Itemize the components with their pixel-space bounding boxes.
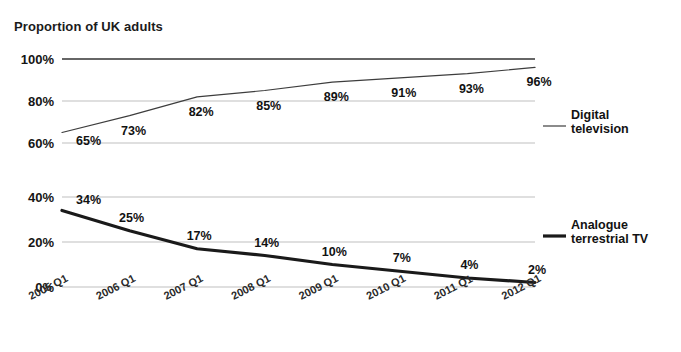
chart-plot-area: 100%80%60%40% 20%0% 65%73%82%85%89%91%93… — [0, 0, 681, 352]
y-axis-tick-labels-upper: 100%80%60%40% — [21, 52, 55, 205]
series-data-labels: 65%73%82%85%89%91%93%96%34%25%17%14%10%7… — [76, 75, 552, 276]
legend-label-digital-television: Digital — [571, 108, 609, 122]
data-point-label: 85% — [256, 99, 281, 113]
legend-label-analogue-terrestrial-tv: Analogue — [571, 218, 628, 232]
data-point-label: 91% — [391, 86, 416, 100]
data-point-label: 93% — [459, 82, 484, 96]
y-tick-label: 80% — [28, 94, 54, 109]
data-point-label: 73% — [121, 124, 146, 138]
y-tick-label: 60% — [28, 136, 54, 151]
x-tick-label: 2012 Q1 — [499, 272, 542, 302]
data-point-label: 7% — [393, 251, 411, 265]
data-point-label: 4% — [460, 258, 478, 272]
data-point-label: 65% — [76, 134, 101, 148]
legend-label-digital-television-line2: television — [571, 122, 629, 136]
chart-legend: DigitaltelevisionAnalogueterrestrial TV — [543, 108, 649, 246]
y-tick-label: 40% — [28, 190, 54, 205]
data-point-label: 96% — [526, 75, 551, 89]
legend-label-analogue-terrestrial-tv-line2: terrestrial TV — [571, 232, 649, 246]
y-tick-label: 20% — [28, 235, 54, 250]
data-point-label: 17% — [187, 229, 212, 243]
y-tick-label: 100% — [21, 52, 55, 67]
data-point-label: 25% — [119, 211, 144, 225]
data-point-label: 82% — [189, 105, 214, 119]
series-lines — [62, 67, 535, 282]
data-point-label: 10% — [322, 245, 347, 259]
data-point-label: 14% — [254, 236, 279, 250]
chart-figure: Proportion of UK adults 100%80%60%40% 20… — [0, 0, 681, 352]
data-point-label: 89% — [324, 90, 349, 104]
data-point-label: 34% — [76, 193, 101, 207]
